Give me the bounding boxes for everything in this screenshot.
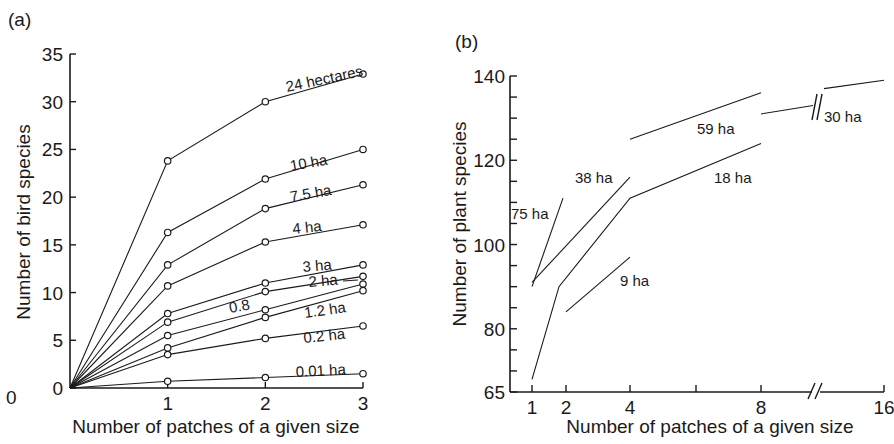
data-point-10-ha	[164, 229, 170, 235]
data-point-7-5-ha	[360, 182, 366, 188]
panel-a-y-tick-label: 35	[42, 44, 63, 65]
series-label-leader-2-ha	[343, 280, 358, 281]
axis-break-icon	[808, 383, 815, 399]
data-point-3-ha	[164, 310, 170, 316]
panel-b-plant-species: (b) 6580100120140124816 75 ha38 ha18 ha9…	[449, 31, 894, 437]
series-line-30-ha	[761, 105, 813, 113]
panel-a-x-tick-label: 1	[162, 393, 173, 414]
data-point-2-ha	[360, 273, 366, 279]
panel-a-y-tick-label: 0	[52, 378, 63, 399]
panel-b-label: (b)	[455, 31, 478, 52]
line-break-icon	[817, 94, 822, 120]
data-point-0-2-ha	[262, 335, 268, 341]
panel-b-x-axis-title: Number of patches of a given size	[566, 416, 853, 437]
panel-b-y-tick-label: 120	[473, 150, 505, 171]
data-point-2-ha	[164, 319, 170, 325]
panel-b-y-tick-label: 65	[484, 382, 505, 403]
series-label-75-ha: 75 ha	[511, 205, 549, 222]
data-point-0-2-ha	[360, 323, 366, 329]
panel-a-y-tick-label: 25	[42, 139, 63, 160]
series-line-59-ha	[630, 93, 761, 139]
series-label-0-8: 0.8	[228, 296, 251, 316]
data-point-3-ha	[262, 280, 268, 286]
series-label-0-01-ha: 0.01 ha	[295, 360, 347, 380]
series-line-38-ha	[532, 177, 630, 282]
panel-a-y-tick-label: 20	[42, 187, 63, 208]
series-label-7-5-ha: 7.5 ha	[289, 181, 334, 205]
panel-a-y-tick-label: 10	[42, 283, 63, 304]
data-point-0-01-ha	[164, 378, 170, 384]
series-label-4-ha: 4 ha	[292, 217, 323, 237]
series-label-0-2-ha: 0.2 ha	[303, 325, 347, 346]
series-label-24-hectares: 24 hectares	[284, 62, 364, 95]
data-point-10-ha	[360, 146, 366, 152]
series-label-1-2-ha: 1.2 ha	[303, 298, 347, 321]
panel-a-x-tick-label: 2	[260, 393, 271, 414]
series-label-10-ha: 10 ha	[289, 151, 330, 174]
series-line-30-ha-continued	[824, 80, 884, 88]
data-point-24-hectares	[262, 99, 268, 105]
panel-b-series-labels: 75 ha38 ha18 ha9 ha59 ha30 ha	[511, 108, 862, 289]
data-point-7-5-ha	[262, 205, 268, 211]
data-point-7-5-ha	[164, 262, 170, 268]
series-label-30-ha: 30 ha	[824, 108, 862, 125]
data-point-10-ha	[262, 176, 268, 182]
data-point-0-01-ha	[360, 370, 366, 376]
series-label-9-ha: 9 ha	[620, 272, 650, 289]
data-point-0-8	[360, 281, 366, 287]
data-point-4-ha	[262, 239, 268, 245]
panel-a-x-tick-label: 3	[358, 393, 369, 414]
series-label-18-ha: 18 ha	[714, 169, 752, 186]
data-point-4-ha	[164, 283, 170, 289]
data-point-4-ha	[360, 222, 366, 228]
data-point-0-8	[262, 307, 268, 313]
panel-b-x-tick-label: 2	[561, 397, 572, 418]
panel-b-x-tick-label: 16	[873, 397, 894, 418]
data-point-0-8	[164, 332, 170, 338]
panel-b-y-tick-label: 100	[473, 235, 505, 256]
panel-b-y-tick-label: 140	[473, 66, 505, 87]
data-point-0-2-ha	[164, 351, 170, 357]
panel-b-y-axis-title: Number of plant species	[449, 122, 470, 327]
data-point-3-ha	[360, 262, 366, 268]
panel-a-series-labels: 24 hectares10 ha7.5 ha4 ha3 ha2 ha0.81.2…	[228, 62, 365, 380]
panel-b-y-tick-label: 80	[484, 319, 505, 340]
data-point-0-01-ha	[262, 374, 268, 380]
panel-a-y-tick-label: 30	[42, 92, 63, 113]
data-point-2-ha	[262, 288, 268, 294]
panel-b-x-tick-label: 4	[625, 397, 636, 418]
data-point-24-hectares	[164, 158, 170, 164]
data-point-1-2-ha	[360, 287, 366, 293]
panel-a-y-tick-label: 15	[42, 235, 63, 256]
line-break-icon	[812, 94, 817, 120]
series-label-2-ha: 2 ha	[308, 270, 339, 290]
panel-a-bird-species: (a) 051015202530351230 24 hectares10 ha7…	[6, 9, 368, 437]
panel-a-y-axis-title: Number of bird species	[13, 124, 34, 319]
panel-b-x-tick-label: 1	[527, 397, 538, 418]
axis-break-icon	[815, 383, 822, 399]
panel-b-x-tick-label: 8	[756, 397, 767, 418]
series-label-38-ha: 38 ha	[575, 169, 613, 186]
panel-a-origin-label: 0	[6, 387, 17, 408]
panel-a-y-tick-label: 5	[52, 330, 63, 351]
data-point-1-2-ha	[164, 345, 170, 351]
figure: (a) 051015202530351230 24 hectares10 ha7…	[0, 0, 894, 444]
panel-a-x-axis-title: Number of patches of a given size	[72, 416, 359, 437]
series-label-59-ha: 59 ha	[697, 120, 735, 137]
panel-a-label: (a)	[8, 9, 31, 30]
data-point-1-2-ha	[262, 314, 268, 320]
